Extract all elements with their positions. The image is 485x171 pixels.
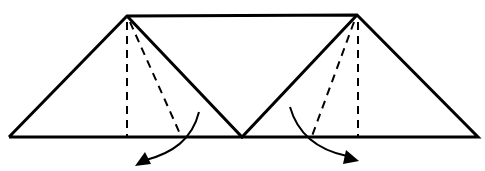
right-arrow-curve	[290, 107, 347, 156]
outline-shape	[9, 15, 478, 137]
origami-fold-diagram	[0, 0, 485, 171]
paper-outline	[9, 15, 478, 137]
left-fold-arrow	[135, 112, 199, 166]
fold-lines	[127, 22, 358, 137]
right-arrowhead-icon	[343, 150, 359, 164]
center-flap-edges	[127, 15, 357, 137]
left-diagonal-fold-line	[130, 22, 181, 136]
